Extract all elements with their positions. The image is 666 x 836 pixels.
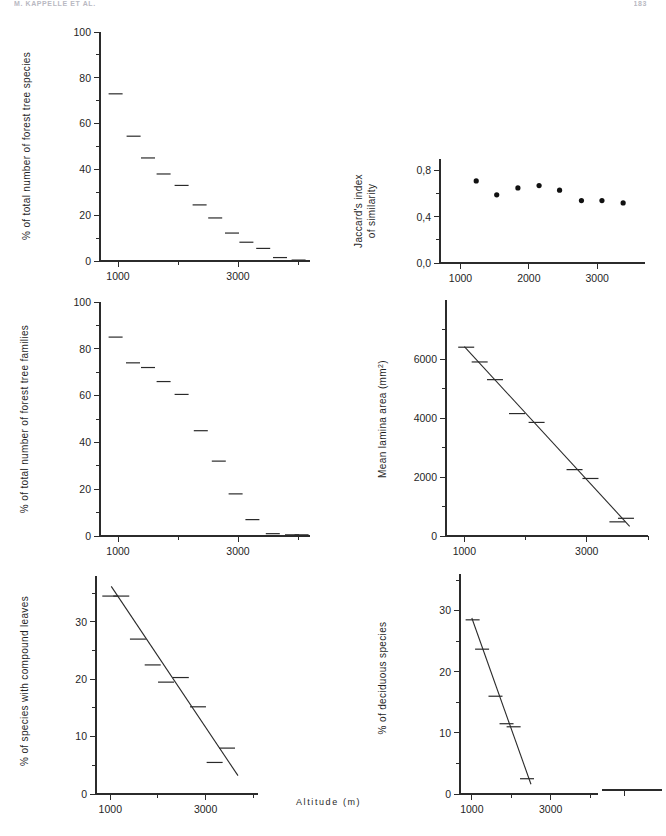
- y-axis-title: % of species with compound leaves: [19, 596, 30, 766]
- chart-panel-species-percent: 02040608010010003000% of total number of…: [0, 14, 330, 294]
- y-tick-label: 100: [73, 26, 91, 38]
- y-axis-title-text: Mean lamina area (mm2): [377, 360, 389, 478]
- x-tick-label: 3000: [194, 803, 218, 815]
- y-axis-title: % of total number of forest tree familie…: [19, 325, 30, 513]
- y-axis-title: % of total number of forest tree species: [21, 52, 32, 240]
- x-tick-label: 1000: [99, 803, 123, 815]
- chart-panel-jaccard-index: 0,00,40,8100020003000Jaccard's indexof s…: [330, 145, 659, 294]
- x-tick-label: 3000: [226, 545, 250, 557]
- y-tick-label: 20: [439, 666, 451, 678]
- y-tick-label: 20: [75, 673, 87, 685]
- y-axis-title-text: % of total number of forest tree species: [21, 52, 32, 240]
- chart-species-percent: 02040608010010003000% of total number of…: [0, 14, 330, 294]
- data-point: [599, 198, 604, 203]
- y-tick-label: 60: [79, 117, 91, 129]
- y-tick-label: 100: [73, 296, 91, 308]
- y-tick-label: 0: [431, 530, 437, 542]
- trend-line: [472, 618, 531, 784]
- y-tick-label: 0: [85, 530, 91, 542]
- trend-line: [464, 347, 629, 527]
- chart-compound-leaves: 010203010003000% of species with compoun…: [0, 566, 330, 816]
- chart-panel-compound-leaves: 010203010003000% of species with compoun…: [0, 566, 330, 816]
- axis-fragment: [602, 780, 666, 800]
- running-head: M. KAPPELLE ET AL. 183: [0, 0, 659, 14]
- x-axis-caption: Altitude (m): [296, 797, 361, 807]
- y-tick-label: 80: [79, 343, 91, 355]
- y-tick-label: 20: [79, 483, 91, 495]
- x-tick-label: 3000: [226, 270, 250, 282]
- x-tick-label: 1000: [449, 272, 473, 284]
- chart-families-percent: 02040608010010003000% of total number of…: [0, 294, 330, 566]
- y-tick-label: 2000: [414, 471, 438, 483]
- y-axis-title: Mean lamina area (mm2): [377, 360, 389, 478]
- y-tick-label: 40: [79, 436, 91, 448]
- chart-panel-deciduous-species: 010203010003000% of deciduous species: [330, 566, 659, 816]
- y-tick-label: 10: [75, 730, 87, 742]
- chart-panel-mean-lamina-area: 020004000600010003000Mean lamina area (m…: [330, 294, 659, 566]
- x-tick-label: 3000: [539, 803, 563, 815]
- chart-jaccard-index: 0,00,40,8100020003000Jaccard's indexof s…: [330, 145, 659, 294]
- trend-line: [111, 586, 238, 775]
- data-point: [474, 178, 479, 183]
- y-tick-label: 0,4: [416, 211, 431, 223]
- y-axis-title-tail: ): [377, 360, 388, 364]
- y-axis-title: % of deciduous species: [377, 622, 388, 735]
- y-tick-label: 4000: [414, 412, 438, 424]
- y-tick-label: 80: [79, 72, 91, 84]
- x-tick-label: 1000: [460, 803, 484, 815]
- y-tick-label: 0,0: [416, 257, 431, 269]
- page-number: 183: [634, 0, 647, 7]
- y-tick-label: 30: [75, 616, 87, 628]
- y-tick-label: 0,8: [416, 164, 431, 176]
- chart-panel-families-percent: 02040608010010003000% of total number of…: [0, 294, 330, 566]
- data-point: [621, 200, 626, 205]
- y-axis-title-line: of similarity: [366, 184, 377, 239]
- x-tick-label: 2000: [517, 272, 541, 284]
- data-point: [515, 185, 520, 190]
- y-axis-title-text: % of deciduous species: [377, 622, 388, 735]
- chart-mean-lamina-area: 020004000600010003000Mean lamina area (m…: [330, 294, 659, 566]
- y-tick-label: 30: [439, 604, 451, 616]
- y-axis-title-text: % of species with compound leaves: [19, 596, 30, 766]
- data-point: [579, 198, 584, 203]
- y-tick-label: 0: [81, 788, 87, 800]
- x-tick-label: 1000: [106, 545, 130, 557]
- chart-deciduous-species: 010203010003000% of deciduous species: [330, 566, 659, 816]
- running-head-title: M. KAPPELLE ET AL.: [14, 0, 96, 7]
- x-tick-label: 1000: [453, 545, 477, 557]
- y-tick-label: 0: [85, 255, 91, 267]
- x-tick-label: 1000: [106, 270, 130, 282]
- y-tick-label: 10: [439, 727, 451, 739]
- y-tick-label: 6000: [414, 353, 438, 365]
- x-tick-label: 3000: [585, 272, 609, 284]
- y-tick-label: 0: [445, 788, 451, 800]
- y-axis-title-text: % of total number of forest tree familie…: [19, 325, 30, 513]
- y-tick-label: 20: [79, 209, 91, 221]
- y-tick-label: 40: [79, 163, 91, 175]
- data-point: [557, 188, 562, 193]
- x-tick-label: 3000: [575, 545, 599, 557]
- data-point: [536, 183, 541, 188]
- y-axis-title-line: Jaccard's index: [353, 174, 364, 248]
- data-point: [494, 192, 499, 197]
- y-axis-title: Jaccard's indexof similarity: [353, 174, 377, 248]
- y-tick-label: 60: [79, 389, 91, 401]
